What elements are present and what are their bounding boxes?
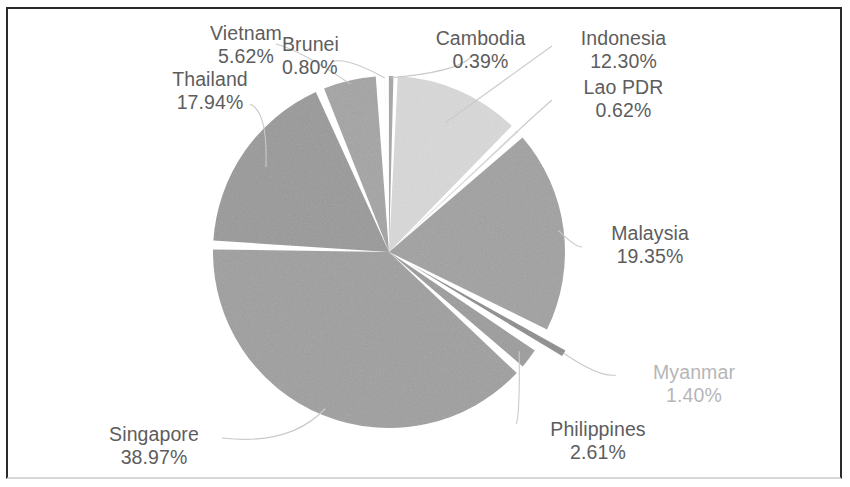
pie-slices[interactable] <box>213 76 565 428</box>
label-name-malaysia: Malaysia <box>585 222 715 245</box>
leader-line-singapore <box>222 409 325 440</box>
slice-label-myanmar: Myanmar 1.40% <box>620 361 768 407</box>
slice-label-cambodia: Cambodia 0.39% <box>413 27 548 73</box>
slice-label-singapore: Singapore 38.97% <box>84 423 224 469</box>
label-percent-cambodia: 0.39% <box>413 50 548 73</box>
label-percent-philippines: 2.61% <box>528 441 668 464</box>
label-name-thailand: Thailand <box>150 68 270 91</box>
label-name-singapore: Singapore <box>84 423 224 446</box>
leader-line-lao-pdr <box>516 100 552 133</box>
pie-chart[interactable] <box>0 0 850 487</box>
slice-label-brunei: Brunei 0.80% <box>282 33 386 79</box>
label-percent-brunei: 0.80% <box>282 56 386 79</box>
slice-label-indonesia: Indonesia 12.30% <box>556 27 691 73</box>
slice-label-philippines: Philippines 2.61% <box>528 418 668 464</box>
slice-label-thailand: Thailand 17.94% <box>150 68 270 114</box>
label-name-myanmar: Myanmar <box>620 361 768 384</box>
label-name-brunei: Brunei <box>282 33 386 56</box>
label-name-lao-pdr: Lao PDR <box>556 76 691 99</box>
label-percent-singapore: 38.97% <box>84 446 224 469</box>
label-percent-lao-pdr: 0.62% <box>556 99 691 122</box>
label-name-indonesia: Indonesia <box>556 27 691 50</box>
slice-label-lao-pdr: Lao PDR 0.62% <box>556 76 691 122</box>
label-name-cambodia: Cambodia <box>413 27 548 50</box>
label-percent-thailand: 17.94% <box>150 91 270 114</box>
label-percent-malaysia: 19.35% <box>585 245 715 268</box>
label-percent-myanmar: 1.40% <box>620 384 768 407</box>
leader-line-myanmar <box>564 353 616 375</box>
label-percent-indonesia: 12.30% <box>556 50 691 73</box>
label-name-philippines: Philippines <box>528 418 668 441</box>
slice-label-malaysia: Malaysia 19.35% <box>585 222 715 268</box>
